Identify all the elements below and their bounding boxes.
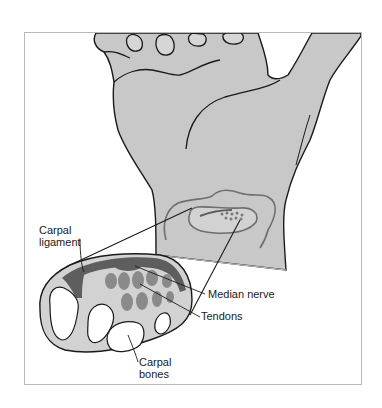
label-carpal-bones-line1: Carpal — [139, 356, 171, 368]
wrist-anatomy-illustration — [0, 0, 382, 408]
label-tendons: Tendons — [201, 310, 243, 322]
label-carpal-ligament: Carpal ligament — [39, 224, 81, 248]
carpal-tunnel-cross-section — [40, 254, 192, 352]
median-nerve — [115, 261, 141, 271]
label-carpal-bones: Carpal bones — [139, 356, 171, 380]
label-carpal-bones-line2: bones — [139, 368, 171, 380]
label-median-nerve: Median nerve — [208, 288, 275, 300]
label-carpal-ligament-line1: Carpal — [39, 224, 81, 236]
label-carpal-ligament-line2: ligament — [39, 236, 81, 248]
